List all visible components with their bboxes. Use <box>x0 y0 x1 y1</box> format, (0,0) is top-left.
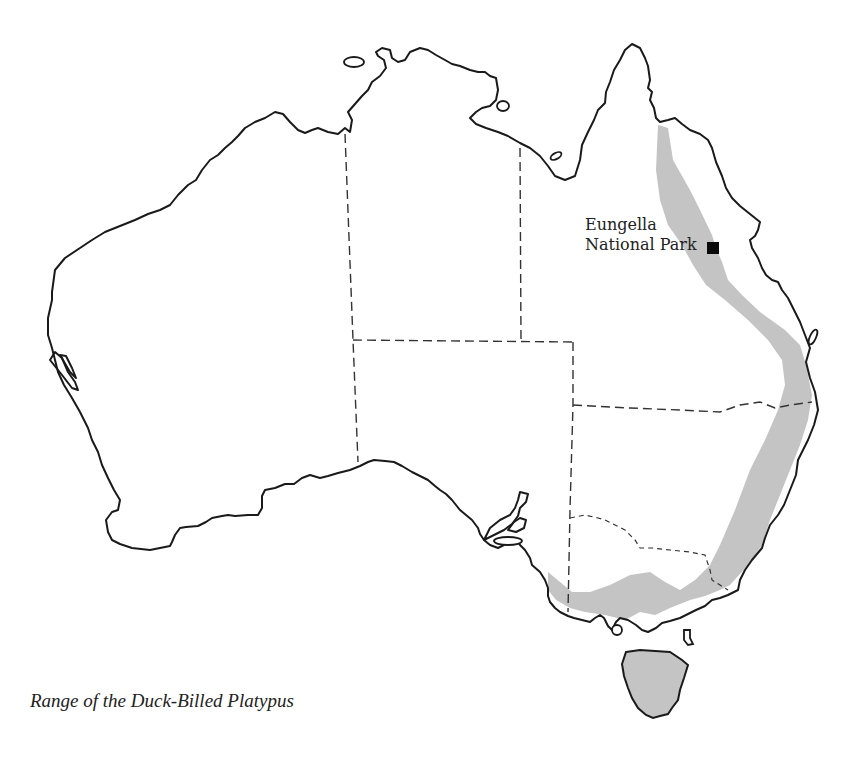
yorke-peninsula <box>508 518 526 532</box>
map-caption: Range of the Duck-Billed Platypus <box>30 690 294 712</box>
nt-qld-border <box>520 148 521 342</box>
eungella-label-line2: National Park <box>585 235 697 255</box>
nt-sa-border <box>353 340 573 342</box>
eungella-label-line1: Eungella <box>585 215 697 235</box>
spencer-gulf <box>484 492 528 540</box>
sa-qld-nsw-vic-border <box>568 342 573 612</box>
flinders-island <box>684 630 693 645</box>
eungella-label: Eungella National Park <box>585 215 697 255</box>
kangaroo-island <box>494 537 522 545</box>
tiwi-island <box>344 57 364 67</box>
tasmania <box>622 650 688 718</box>
wa-nt-sa-border <box>345 134 358 462</box>
king-island <box>612 625 622 635</box>
mornington-island <box>549 150 562 161</box>
qld-nsw-border <box>573 402 812 412</box>
eungella-marker <box>707 242 719 254</box>
australia-map <box>0 0 863 766</box>
australia-coastline <box>48 44 818 632</box>
fraser-island <box>807 328 819 345</box>
platypus-range-mainland <box>548 125 812 620</box>
groote-eylandt <box>497 101 509 111</box>
